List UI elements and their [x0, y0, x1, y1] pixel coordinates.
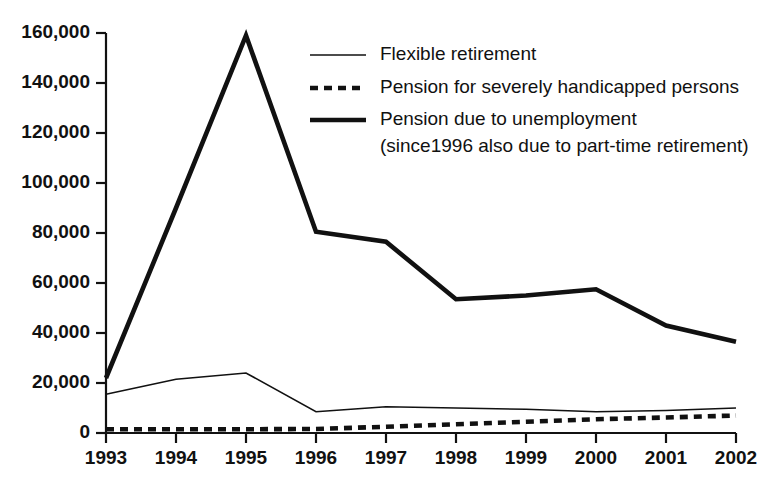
line-chart: 160,000 140,000 120,000 100,000 80,000 6…	[0, 0, 766, 490]
x-axis-ticks	[106, 433, 736, 443]
legend-entry-label: Flexible retirement	[380, 43, 537, 64]
y-axis-tick-labels: 160,000 140,000 120,000 100,000 80,000 6…	[21, 21, 90, 442]
y-tick-label: 140,000	[21, 71, 90, 92]
chart-legend: Flexible retirement Pension for severely…	[310, 43, 749, 156]
x-tick-label: 1999	[505, 447, 547, 468]
legend-entry-sublabel: (since1996 also due to part-time retirem…	[380, 135, 749, 156]
x-tick-label: 1998	[435, 447, 477, 468]
y-tick-label: 40,000	[32, 321, 90, 342]
x-tick-label: 1994	[155, 447, 198, 468]
y-tick-label: 80,000	[32, 221, 90, 242]
y-tick-label: 60,000	[32, 271, 90, 292]
x-tick-label: 1997	[365, 447, 407, 468]
x-tick-label: 2001	[645, 447, 688, 468]
series-line-pension-severely-handicapped	[106, 416, 736, 430]
y-tick-label: 20,000	[32, 371, 90, 392]
series-line-flexible-retirement	[106, 373, 736, 412]
x-tick-label: 2002	[715, 447, 757, 468]
y-tick-label: 0	[79, 421, 90, 442]
x-tick-label: 1995	[225, 447, 268, 468]
legend-entry-label: Pension due to unemployment	[380, 108, 637, 129]
y-axis-ticks	[96, 33, 106, 433]
x-tick-label: 2000	[575, 447, 617, 468]
x-axis-tick-labels: 1993 1994 1995 1996 1997 1998 1999 2000 …	[85, 447, 757, 468]
legend-entry-label: Pension for severely handicapped persons	[380, 76, 739, 97]
x-tick-label: 1996	[295, 447, 337, 468]
y-tick-label: 120,000	[21, 121, 90, 142]
y-tick-label: 160,000	[21, 21, 90, 42]
x-tick-label: 1993	[85, 447, 127, 468]
y-tick-label: 100,000	[21, 171, 90, 192]
chart-canvas: 160,000 140,000 120,000 100,000 80,000 6…	[0, 0, 766, 490]
